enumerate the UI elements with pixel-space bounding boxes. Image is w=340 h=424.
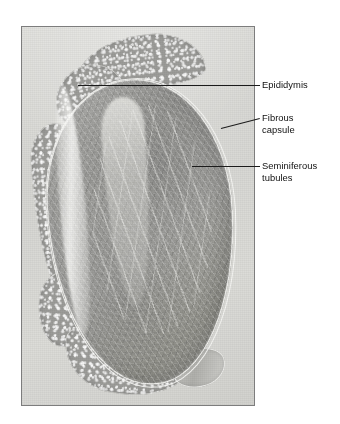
micrograph-plate: [21, 26, 255, 406]
leader-line-epididymis: [78, 85, 260, 86]
label-seminiferous-tubules: Seminiferous tubules: [262, 160, 317, 183]
film-grain-overlay: [22, 27, 254, 405]
figure-root: Epididymis Fibrous capsule Seminiferous …: [0, 0, 340, 424]
label-epididymis: Epididymis: [262, 79, 308, 91]
leader-line-seminiferous-tubules: [192, 166, 260, 167]
label-fibrous-capsule: Fibrous capsule: [262, 112, 295, 135]
